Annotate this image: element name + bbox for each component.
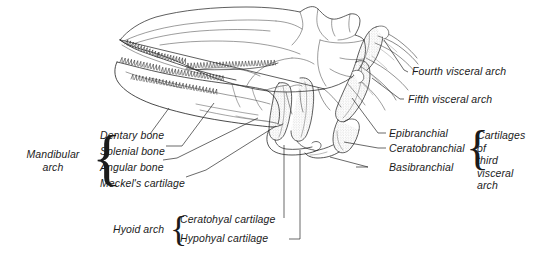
label-cartilages-third-visceral-arch: Cartilages of third visceral arch: [477, 129, 534, 192]
label-mandibular-arch: Mandibular arch: [16, 148, 90, 173]
label-fourth-visceral-arch: Fourth visceral arch: [412, 65, 506, 78]
label-epibranchial: Epibranchial: [389, 127, 448, 140]
leader-angular: [163, 118, 258, 160]
leader-splenial: [166, 103, 214, 146]
leader-meckel: [186, 126, 276, 177]
label-ceratobranchial: Ceratobranchial: [389, 142, 465, 155]
label-angular-bone: Angular bone: [100, 161, 164, 174]
cranium-outline: [120, 7, 366, 92]
label-splenial-bone: Splenial bone: [100, 145, 165, 158]
label-basibranchial: Basibranchial: [389, 161, 453, 174]
label-ceratohyal-cartilage: Ceratohyal cartilage: [180, 213, 275, 226]
leader-hypohyal: [289, 150, 300, 239]
leader-fifth: [372, 78, 404, 99]
leader-basibranchial: [330, 157, 368, 167]
label-dentary-bone: Dentary bone: [100, 129, 164, 142]
label-hypohyal-cartilage: Hypohyal cartilage: [180, 232, 268, 245]
figure-canvas: Mandibular arch { Dentary bone Splenial …: [0, 0, 534, 255]
label-meckels-cartilage: Meckel's cartilage: [100, 177, 185, 190]
label-hyoid-arch: Hyoid arch: [113, 223, 164, 236]
label-fifth-visceral-arch: Fifth visceral arch: [408, 93, 492, 106]
